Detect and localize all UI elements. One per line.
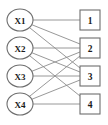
graph-node-1: 1 (80, 10, 100, 30)
node-label: 2 (88, 44, 93, 54)
graph-node-x3: X3 (7, 65, 33, 87)
node-label: 4 (88, 100, 93, 110)
left-nodes-layer: X1X2X3X4 (7, 9, 33, 115)
node-label: X4 (15, 100, 26, 110)
node-label: X2 (15, 44, 26, 54)
graph-node-x1: X1 (7, 9, 33, 31)
bipartite-graph-diagram: X1X2X3X4 1234 (0, 0, 108, 125)
graph-node-x4: X4 (7, 93, 33, 115)
edges-layer (29, 20, 80, 104)
node-label: 1 (88, 16, 93, 26)
graph-canvas: X1X2X3X4 1234 (0, 0, 108, 125)
right-nodes-layer: 1234 (80, 10, 100, 114)
graph-node-4: 4 (80, 94, 100, 114)
graph-edge (32, 25, 80, 44)
graph-node-2: 2 (80, 38, 100, 58)
graph-node-3: 3 (80, 66, 100, 86)
node-label: X1 (15, 16, 26, 26)
node-label: X3 (15, 72, 26, 82)
node-label: 3 (88, 72, 93, 82)
graph-node-x2: X2 (7, 37, 33, 59)
